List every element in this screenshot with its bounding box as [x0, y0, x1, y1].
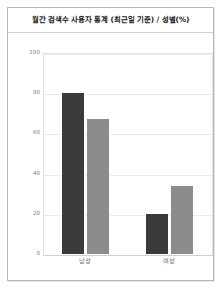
bar: [62, 93, 84, 254]
y-tick-label: 60: [14, 131, 40, 137]
y-tick-label: 20: [14, 211, 40, 217]
bar: [87, 119, 109, 254]
y-tick-label: 100: [14, 50, 40, 56]
x-tick-label: 여성: [163, 258, 175, 264]
y-axis-tick-labels: 020406080100: [11, 53, 40, 254]
chart-card: 월간 검색수 사용자 통계 (최근일 기준) / 성별(%) 020406080…: [7, 7, 214, 281]
chart-title-bar: 월간 검색수 사용자 통계 (최근일 기준) / 성별(%): [8, 8, 213, 33]
x-tick-label: 남성: [79, 258, 91, 264]
y-tick-label: 80: [14, 90, 40, 96]
bar: [146, 214, 168, 254]
y-tick-label: 40: [14, 171, 40, 177]
bar: [171, 186, 193, 254]
x-axis-tick-labels: 남성여성: [43, 256, 211, 270]
page-title: 월간 검색수 사용자 통계 (최근일 기준) / 성별(%): [32, 16, 190, 23]
y-tick-label: 0: [14, 251, 40, 257]
plot-wrapper: 020406080100 남성여성: [8, 33, 213, 280]
bars-layer: [43, 53, 211, 254]
